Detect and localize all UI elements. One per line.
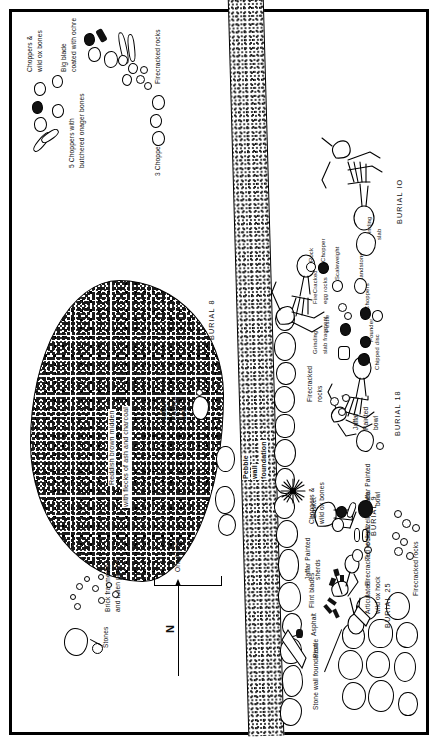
scale-bar (154, 576, 222, 586)
firecracked-rock (330, 397, 339, 406)
chopper-artifact (104, 51, 118, 68)
firecracked-mid-line1: Firecracked (306, 366, 313, 402)
burial-8-label: BURIAL 8 (208, 300, 216, 341)
onager-line2: butchered onager bones (78, 93, 85, 168)
jaffar-mid-line1: Jaffar (352, 413, 359, 430)
chopper-artifact (150, 114, 162, 128)
jaffar-painted-bowl (356, 430, 374, 452)
plan-map-space: Reddish brown midden with flecks of ash … (12, 12, 426, 732)
jaffar-mid-line3: bowl (372, 416, 379, 430)
wall-stone (280, 698, 302, 726)
bowl-sherd (376, 442, 384, 450)
firecracked-rock (338, 408, 346, 416)
wall-stone (276, 520, 298, 548)
wall-stone (274, 386, 295, 413)
articulated-line2: wild ox hock (374, 576, 381, 614)
brick-fragment (84, 576, 90, 582)
chopper-artifact (52, 104, 64, 118)
label-chopper: Chopper (320, 238, 327, 262)
foundation-stone (398, 692, 418, 716)
firecracked-rock (122, 74, 132, 86)
brick-fragment (74, 603, 81, 610)
firecracked-egg-rock (344, 312, 352, 320)
firecracked-rock (144, 82, 152, 90)
chipped-disc-artifact (358, 353, 370, 366)
foundation-stone (366, 651, 390, 678)
firecracked-lower-label: Firecracked rocks (364, 531, 371, 586)
big-blade-artifact (95, 28, 108, 43)
figure-canvas: Reddish brown midden with flecks of ash … (0, 0, 438, 744)
label-rock: Rock (308, 248, 315, 262)
scale-bar-label: One Meter (174, 540, 181, 573)
wall-stone (274, 439, 296, 467)
chopper-artifact (32, 101, 43, 114)
jaffar-mid-line2: Painted (362, 407, 369, 430)
firecracked-mid-line2: rocks (316, 385, 323, 402)
loose-stone (215, 486, 235, 514)
brick-fragment (112, 591, 119, 598)
firecracked-rock (402, 519, 411, 528)
foundation-stone (396, 622, 418, 648)
brick-fragment (76, 583, 83, 590)
wall-stone (278, 582, 301, 612)
pestle-artifact (278, 626, 308, 670)
firecracked-rock (392, 532, 400, 540)
wall-stone (275, 414, 295, 438)
label-grinding-frag-2: slab fragment (322, 316, 329, 354)
pounder-artifact (360, 336, 371, 348)
grinding-slab-artifact (356, 232, 376, 256)
basket-symbol (280, 478, 306, 504)
firecracked-rock (136, 75, 145, 84)
wall-stone (278, 549, 299, 581)
loose-stone (218, 514, 236, 536)
scaleweight-artifact (332, 280, 343, 292)
chopper-artifact (318, 262, 329, 274)
burial-10-label: BURIAL IO (396, 179, 404, 224)
burial-18-label: BURIAL 18 (394, 390, 402, 436)
big-blade-line2: coated with ochre (70, 18, 77, 72)
burial-25-label: BURIAL 25 (384, 582, 392, 628)
north-arrow-line (178, 584, 179, 676)
brick-fragment (98, 574, 104, 580)
north-arrow-head (175, 579, 181, 586)
grinding-slab-fragment (338, 346, 350, 360)
chopper-artifact (84, 33, 95, 46)
firecracked-rock (140, 66, 148, 74)
firecracked-egg-rock (338, 303, 347, 312)
brick-fragment (106, 582, 112, 588)
label-chipped-disc: Chipped disc (374, 334, 381, 370)
jaffar-lower-line2: bowl (374, 492, 381, 506)
brick-line2: and fallen plaster (114, 559, 121, 612)
firecracked-rock (118, 55, 128, 66)
big-blade-line1: Big blade (60, 43, 67, 72)
midden-label-line2: with flecks of ash and charcoal (122, 406, 130, 508)
label-grinding-slab-2: slab (376, 229, 383, 240)
firecracked-bottom-label: Firecracked rocks (412, 541, 419, 596)
jaffar-upper-line1: Jaffar (160, 403, 167, 420)
chopper-artifact (34, 117, 47, 132)
brick-fragment (70, 594, 76, 600)
pebble-wall-line3: foundation (260, 440, 268, 480)
firecracked-right-label: Firecracked rocks (154, 29, 161, 84)
top-left-line2: wild ox bones (36, 30, 43, 72)
label-firecracked-egg-2: egg rocks (322, 277, 329, 304)
bowl-sherd (196, 389, 203, 396)
onager-line1: 5 Choppers with (68, 118, 75, 168)
chopper-artifact (34, 82, 46, 96)
midden-label-line1: Reddish brown midden (108, 409, 116, 486)
burial-10-skeleton (308, 134, 388, 232)
pebble-wall-line2: wall (251, 464, 259, 480)
chopper-artifact (336, 506, 347, 518)
foundation-stone (394, 652, 416, 682)
plan-frame: Reddish brown midden with flecks of ash … (9, 9, 429, 735)
flint-blades-label: Flint blades (308, 572, 315, 608)
firecracked-rock (400, 538, 408, 546)
brick-fragment (98, 597, 105, 604)
top-left-line1: Choppers & (26, 36, 33, 72)
choppers-ox-line1: Choppers & (308, 488, 315, 524)
label-grinding-frag-1: Grinding (312, 331, 319, 354)
firecracked-rock (412, 524, 420, 532)
choppers-ox-line2: wild ox bones (318, 482, 325, 524)
chopper-artifact (152, 95, 165, 110)
pebble-wall-line1: Pebble (242, 454, 250, 480)
